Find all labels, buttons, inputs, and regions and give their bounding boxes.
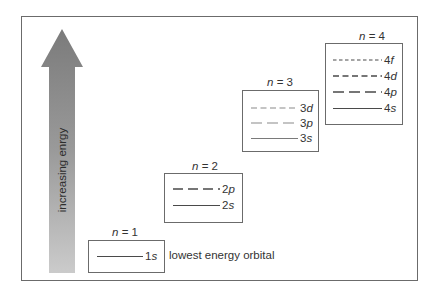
energy-axis-label: increasing enrgy <box>56 128 68 212</box>
orbital-2s-label: 2s <box>222 199 234 211</box>
orbital-3d-label: 3d <box>300 102 313 114</box>
orbital-4p-line <box>333 90 382 94</box>
shell-4-title: n = 4 <box>359 30 385 42</box>
orbital-1s-line <box>97 256 143 257</box>
shell-1-title-eq: = 1 <box>118 226 138 238</box>
orbital-4p-label: 4p <box>384 86 397 98</box>
orbital-4f: 4f <box>333 54 394 66</box>
orbital-4d-label: 4d <box>384 70 397 82</box>
orbital-3d: 3d <box>251 102 313 114</box>
orbital-4s-line <box>333 108 382 109</box>
orbital-4p: 4p <box>333 86 397 98</box>
orbital-4f-line <box>333 58 382 62</box>
orbital-2s-line <box>173 205 220 206</box>
orbital-2s: 2s <box>173 199 234 211</box>
shell-4-box: 4f 4d 4p 4s <box>325 43 403 125</box>
shell-1-box: 1s <box>88 240 165 273</box>
orbital-2p-line <box>173 187 220 191</box>
orbital-1s: 1s <box>97 250 157 262</box>
orbital-3p: 3p <box>251 117 313 129</box>
orbital-2p-label: 2p <box>222 183 235 195</box>
orbital-4s-label: 4s <box>384 102 396 114</box>
shell-2-box: 2p 2s <box>164 173 243 223</box>
shell-2-title-eq: = 2 <box>198 160 218 172</box>
orbital-3p-label: 3p <box>300 117 313 129</box>
orbital-4d-line <box>333 74 382 78</box>
orbital-3p-line <box>251 121 298 125</box>
orbital-3d-line <box>251 106 298 110</box>
shell-1-title: n = 1 <box>112 226 138 238</box>
orbital-3s-label: 3s <box>300 132 312 144</box>
orbital-1s-label: 1s <box>145 250 157 262</box>
shell-3-box: 3d 3p 3s <box>242 90 319 152</box>
shell-3-title-eq: = 3 <box>273 76 293 88</box>
lowest-energy-note: lowest energy orbital <box>169 249 274 261</box>
orbital-4s: 4s <box>333 102 396 114</box>
orbital-3s-line <box>251 138 298 139</box>
shell-2-title: n = 2 <box>192 160 218 172</box>
orbital-3s: 3s <box>251 132 312 144</box>
shell-4-title-eq: = 4 <box>365 30 385 42</box>
orbital-4f-label: 4f <box>384 54 394 66</box>
orbital-4d: 4d <box>333 70 397 82</box>
orbital-2p: 2p <box>173 183 235 195</box>
shell-3-title: n = 3 <box>267 76 293 88</box>
